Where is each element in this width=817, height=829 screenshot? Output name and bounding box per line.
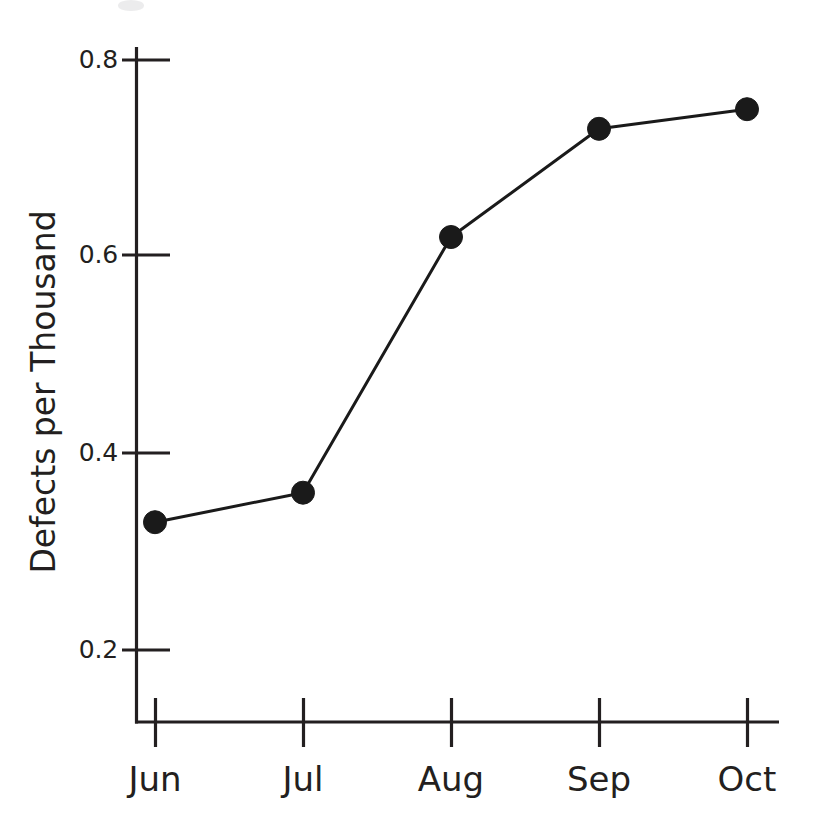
chart-figure: 0.8 0.6 0.4 0.2 Jun Jul Aug Sep Oct Defe… [0,0,817,829]
y-tick-label-0.4: 0.4 [79,438,118,467]
data-point-oct [736,98,759,121]
axis-spines [135,47,779,724]
x-tick-label-jun: Jun [126,759,181,799]
series-line-defects [155,109,747,522]
y-tick-label-0.6: 0.6 [79,240,118,269]
y-axis-tick-labels: 0.8 0.6 0.4 0.2 [79,45,118,664]
y-tick-label-0.2: 0.2 [79,635,118,664]
data-point-sep [588,117,611,140]
y-tick-label-0.8: 0.8 [79,45,118,74]
line-chart-canvas: 0.8 0.6 0.4 0.2 Jun Jul Aug Sep Oct Defe… [0,0,817,829]
x-tick-label-sep: Sep [567,759,631,799]
x-tick-label-oct: Oct [718,759,777,799]
y-axis-title-group: Defects per Thousand [24,210,63,573]
y-axis-ticks [122,60,170,650]
x-axis-tick-labels: Jun Jul Aug Sep Oct [126,759,776,799]
data-point-jul [292,481,315,504]
y-axis-title: Defects per Thousand [24,210,63,573]
data-point-jun [144,511,167,534]
series-markers-group [144,98,759,534]
x-tick-label-aug: Aug [418,759,484,799]
x-tick-label-jul: Jul [280,759,323,799]
data-point-aug [440,226,463,249]
